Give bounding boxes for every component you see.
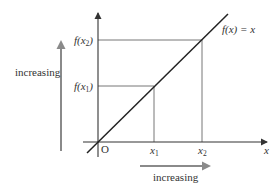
function-label: f(x) = x bbox=[222, 24, 255, 35]
x-tick-x1-sub: 1 bbox=[155, 149, 159, 158]
y-tick-fx1-fn: f(x bbox=[74, 80, 86, 92]
y-tick-fx1-close: ) bbox=[89, 80, 93, 92]
horizontal-arrow-label: increasing bbox=[153, 172, 198, 183]
x-tick-x1: x1 bbox=[150, 145, 159, 158]
y-tick-fx2-fn: f(x bbox=[74, 34, 86, 46]
vertical-arrow-label: increasing bbox=[15, 67, 60, 78]
y-tick-fx1: f(x1) bbox=[74, 81, 93, 94]
y-tick-fx2: f(x2) bbox=[74, 35, 93, 48]
x-tick-x2-sub: 2 bbox=[203, 149, 207, 158]
y-tick-fx2-close: ) bbox=[89, 34, 93, 46]
x-axis-label: x bbox=[264, 145, 269, 156]
x-tick-x2: x2 bbox=[198, 145, 207, 158]
function-line bbox=[87, 14, 228, 153]
origin-label: O bbox=[101, 144, 109, 155]
